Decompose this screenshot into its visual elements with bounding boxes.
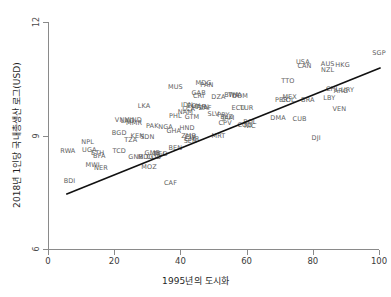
data-point-label: LBY [323,94,335,102]
data-point-label: GTM [185,113,200,121]
data-point-label: COD [146,153,161,161]
x-tick-mark [379,250,380,255]
data-point-label: MMR [126,119,142,127]
x-tick-label: 40 [175,256,186,266]
data-point-label: PAK [146,122,159,130]
y-axis-line [48,22,49,249]
data-point-label: TUR [240,104,254,112]
data-point-label: RWA [60,147,75,155]
data-point-label: PHL [169,112,182,120]
x-tick-mark [180,250,181,255]
data-point-label: TTO [281,77,294,85]
data-point-label: CPV [218,119,231,127]
data-point-label: NIC [244,122,256,130]
data-point-label: BFA [93,152,105,160]
data-point-label: HKG [335,61,350,69]
y-tick-mark [43,22,48,23]
x-tick-mark [247,250,248,255]
data-point-label: PER [275,96,288,104]
trend-line [0,0,391,297]
data-point-label: SDN [140,133,154,141]
data-point-label: SGP [372,49,385,57]
data-point-label: URY [341,86,354,94]
x-tick-label: 100 [371,256,387,266]
x-tick-label: 20 [109,256,120,266]
x-axis-line [48,249,379,250]
data-point-label: VEN [332,105,346,113]
data-point-label: BRA [301,96,314,104]
data-point-label: SEN [184,137,197,145]
data-point-label: NER [94,164,108,172]
y-tick-label: 6 [30,243,42,255]
data-point-label: MUS [168,83,183,91]
data-point-label: BDI [64,177,76,185]
y-tick-label: 9 [30,130,42,142]
data-point-label: TCD [112,147,125,155]
scatter-plot-figure: 6912 020406080100 2018년 1인당 국내총생산 로그(USD… [0,0,391,297]
data-point-label: MRT [211,132,225,140]
x-axis-title: 1995년의 도시화 [0,274,391,287]
y-axis-title-container: 2018년 1인당 국내총생산 로그(USD) [6,0,26,297]
y-tick-label: 12 [30,16,42,28]
y-axis-title: 2018년 1인당 국내총생산 로그(USD) [10,62,23,208]
x-tick-mark [48,250,49,255]
data-point-label: GHA [166,127,181,135]
data-point-label: MOZ [141,163,156,171]
data-point-label: TZA [124,136,137,144]
data-point-label: CRI [193,92,204,100]
data-point-label: CAN [297,62,311,70]
data-point-label: NPL [81,138,94,146]
x-tick-label: 60 [241,256,252,266]
data-point-label: DJI [312,134,321,142]
data-point-label: CAF [164,179,177,187]
x-tick-label: 0 [45,256,50,266]
data-point-label: DOM [232,92,248,100]
data-point-label: BEN [169,144,183,152]
data-point-label: PAN [200,81,213,89]
data-point-label: CUB [293,115,307,123]
x-tick-mark [114,250,115,255]
data-point-label: HND [179,124,194,132]
x-tick-label: 80 [307,256,318,266]
data-point-label: DMA [270,114,285,122]
x-tick-mark [313,250,314,255]
y-tick-mark [43,136,48,137]
data-point-label: LKA [138,102,151,110]
data-point-label: NZL [321,66,334,74]
